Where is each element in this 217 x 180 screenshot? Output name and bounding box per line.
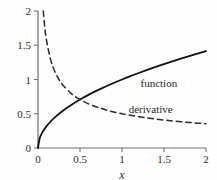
x-tick-label: 0 bbox=[35, 154, 41, 165]
x-axis-ticks bbox=[80, 148, 206, 152]
y-tick-label: 2 bbox=[26, 6, 32, 17]
x-tick-label: 1.5 bbox=[157, 154, 171, 165]
y-tick-label: 1 bbox=[26, 74, 32, 85]
y-tick-label: 1.5 bbox=[17, 40, 31, 51]
x-tick-label: 1 bbox=[119, 154, 125, 165]
y-tick-label: 0 bbox=[26, 143, 32, 154]
plot-area bbox=[0, 0, 217, 180]
x-axis-title: x bbox=[119, 168, 124, 180]
curve-function bbox=[38, 51, 206, 148]
curve-label-function: function bbox=[140, 78, 177, 89]
y-tick-label: 0.5 bbox=[17, 108, 31, 119]
x-tick-label: 2 bbox=[203, 154, 209, 165]
curve-label-derivative: derivative bbox=[129, 104, 173, 115]
figure-container: 00.511.52 00.511.52 x function derivativ… bbox=[0, 0, 217, 180]
x-tick-label: 0.5 bbox=[73, 154, 87, 165]
